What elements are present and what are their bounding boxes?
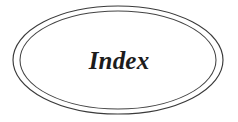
inner-ellipse-icon — [20, 11, 216, 109]
double-ellipse-badge — [0, 0, 238, 122]
index-divider-page: Index — [0, 0, 238, 122]
outer-ellipse-icon — [13, 6, 223, 114]
